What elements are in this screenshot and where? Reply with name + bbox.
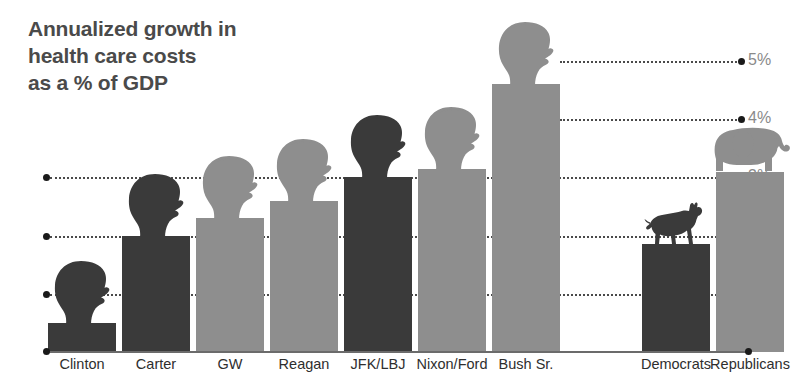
axis-tick-label-4: 4% (748, 109, 771, 127)
right-tick-dot-4 (738, 116, 745, 123)
head-silhouette-icon-gw (199, 154, 261, 220)
left-tick-dot-3 (43, 174, 50, 181)
bar-reagan[interactable] (270, 201, 338, 352)
bar-bush-sr-[interactable] (492, 84, 560, 352)
plot-area: 1%2%3%4%5% ClintonCarterGWReaganJFK/LBJN… (0, 0, 796, 384)
bar-nixon-ford[interactable] (418, 169, 486, 352)
axis-baseline (46, 351, 751, 353)
bar-republicans[interactable] (716, 172, 784, 352)
elephant-icon (713, 126, 791, 174)
chart-container: Annualized growth in health care costs a… (0, 0, 796, 384)
bar-gw[interactable] (196, 218, 264, 352)
x-axis-label-republicans: Republicans (702, 356, 796, 372)
head-silhouette-icon-reagan (273, 137, 335, 203)
gridline-4 (560, 119, 741, 121)
head-silhouette-icon-bush-sr- (495, 20, 557, 86)
donkey-icon (644, 202, 710, 246)
head-silhouette-icon-jfk-lbj (347, 113, 409, 179)
bar-democrats[interactable] (642, 244, 710, 352)
baseline-right-dot (745, 348, 752, 355)
bar-clinton[interactable] (48, 323, 116, 352)
head-silhouette-icon-clinton (51, 259, 113, 325)
x-axis-label-bush-sr-: Bush Sr. (478, 356, 574, 372)
head-silhouette-icon-carter (125, 172, 187, 238)
left-tick-dot-2 (43, 233, 50, 240)
head-silhouette-icon-nixon-ford (421, 105, 483, 171)
axis-tick-label-5: 5% (748, 51, 771, 69)
bar-jfk-lbj[interactable] (344, 177, 412, 352)
gridline-5 (560, 61, 741, 63)
right-tick-dot-5 (738, 58, 745, 65)
left-tick-dot-1 (43, 291, 50, 298)
baseline-left-dot (43, 348, 50, 355)
bar-carter[interactable] (122, 236, 190, 352)
